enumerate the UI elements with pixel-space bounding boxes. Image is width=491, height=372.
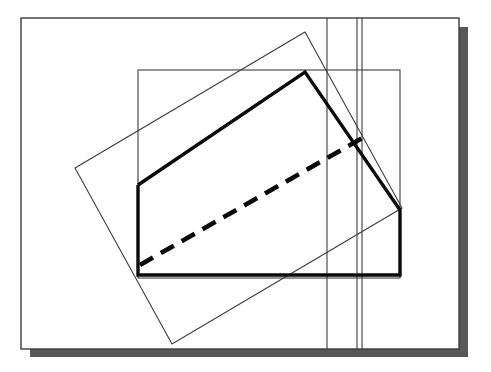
background-fill	[0, 0, 491, 372]
figure-canvas	[0, 0, 491, 372]
geometry-diagram	[0, 0, 491, 372]
